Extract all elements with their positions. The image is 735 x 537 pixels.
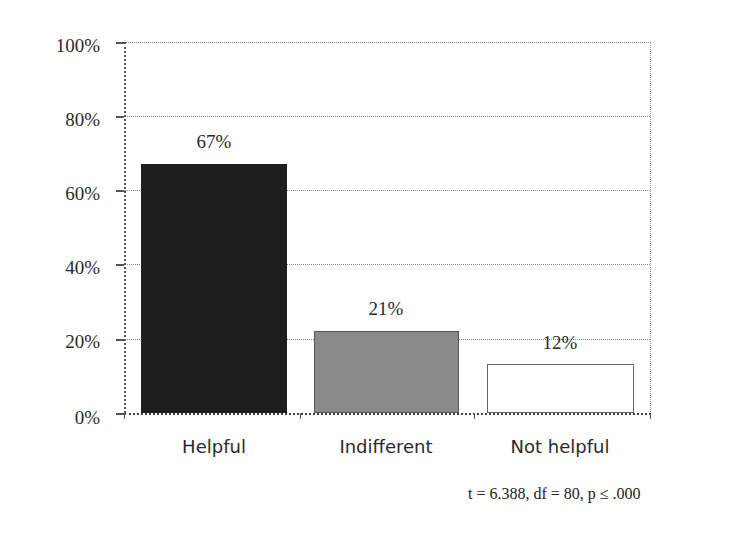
ytick-label: 100%: [56, 35, 100, 57]
bar-indifferent: [314, 331, 459, 413]
ytick-mark: [116, 413, 124, 415]
value-label-helpful: 67%: [154, 131, 274, 153]
xtick-mark: [650, 413, 651, 419]
value-label-indifferent: 21%: [326, 298, 446, 320]
category-label-indifferent: Indifferent: [301, 436, 471, 457]
bar-chart: 100% 80% 60% 40% 20% 0% 67% 21% 12% Help…: [0, 0, 735, 537]
bar-not-helpful: [487, 364, 634, 413]
ytick-label: 20%: [65, 331, 100, 353]
ytick-mark: [116, 42, 124, 44]
gridline-80: [124, 116, 650, 117]
x-axis: [124, 413, 651, 415]
bar-helpful: [141, 164, 287, 413]
xtick-mark: [124, 413, 125, 419]
ytick-mark: [116, 339, 124, 341]
stats-annotation: t = 6.388, df = 80, p ≤ .000: [468, 485, 641, 503]
category-label-helpful: Helpful: [129, 436, 299, 457]
value-label-not-helpful: 12%: [500, 332, 620, 354]
ytick-label: 40%: [65, 257, 100, 279]
ytick-mark: [116, 190, 124, 192]
xtick-mark: [300, 413, 301, 419]
xtick-mark: [474, 413, 475, 419]
ytick-label: 0%: [75, 407, 100, 429]
ytick-mark: [116, 116, 124, 118]
ytick-label: 80%: [65, 109, 100, 131]
ytick-mark: [116, 264, 124, 266]
category-label-not-helpful: Not helpful: [475, 436, 645, 457]
y-axis: [124, 42, 126, 413]
ytick-label: 60%: [65, 183, 100, 205]
